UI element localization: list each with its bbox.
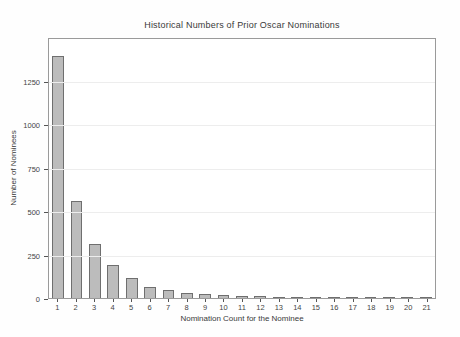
y-tick-label: 1000 [23, 121, 40, 130]
x-tick-label: 11 [233, 299, 251, 313]
chart-title: Historical Numbers of Prior Oscar Nomina… [48, 20, 436, 30]
x-tick-label: 19 [380, 299, 398, 313]
x-tick-label: 1 [48, 299, 66, 313]
bar [401, 297, 413, 298]
y-tick-label: 0 [36, 295, 40, 304]
bar [291, 297, 303, 298]
y-tick-label: 500 [27, 208, 40, 217]
x-tick-label: 15 [307, 299, 325, 313]
x-tick-label: 17 [344, 299, 362, 313]
bar [52, 56, 64, 298]
plot-area [48, 38, 436, 299]
x-tick-label: 16 [325, 299, 343, 313]
gridline [49, 82, 435, 83]
x-tick-label: 12 [251, 299, 269, 313]
x-tick-label: 2 [66, 299, 84, 313]
x-tick-label: 9 [196, 299, 214, 313]
bar [273, 297, 285, 298]
x-tick-label: 5 [122, 299, 140, 313]
bar [218, 295, 230, 298]
bar [107, 265, 119, 298]
y-tick-label: 750 [27, 164, 40, 173]
x-axis-title: Nomination Count for the Nominee [48, 314, 436, 323]
x-tick-label: 13 [270, 299, 288, 313]
gridline [49, 212, 435, 213]
x-tick-label: 14 [288, 299, 306, 313]
bar [71, 201, 83, 298]
bar [144, 287, 156, 298]
bar [383, 297, 395, 298]
bar [126, 278, 138, 298]
x-axis: 123456789101112131415161718192021 [48, 299, 436, 313]
bar [89, 244, 101, 298]
gridline [49, 256, 435, 257]
bar [346, 297, 358, 298]
x-tick-label: 4 [103, 299, 121, 313]
bar [310, 297, 322, 298]
x-tick-label: 18 [362, 299, 380, 313]
x-tick-label: 21 [417, 299, 435, 313]
x-tick-label: 6 [140, 299, 158, 313]
gridline [49, 169, 435, 170]
y-tick-label: 250 [27, 251, 40, 260]
x-tick-label: 8 [177, 299, 195, 313]
x-tick-label: 10 [214, 299, 232, 313]
bar [181, 293, 193, 298]
bar [236, 296, 248, 298]
x-tick-label: 20 [399, 299, 417, 313]
y-tick-label: 1250 [23, 77, 40, 86]
x-tick-label: 7 [159, 299, 177, 313]
bar [365, 297, 377, 298]
bar [420, 297, 432, 298]
y-axis: 025050075010001250 [0, 38, 48, 299]
oscar-nominations-chart: Historical Numbers of Prior Oscar Nomina… [0, 0, 460, 337]
bar [163, 290, 175, 298]
bar [328, 297, 340, 298]
bar [254, 296, 266, 298]
gridline [49, 125, 435, 126]
bar [199, 294, 211, 298]
x-tick-label: 3 [85, 299, 103, 313]
